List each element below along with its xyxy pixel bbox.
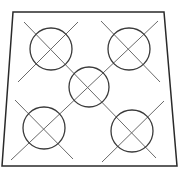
five-circle-crossed-diagram bbox=[0, 0, 181, 176]
diagram-canvas bbox=[0, 0, 181, 176]
background bbox=[0, 0, 181, 176]
